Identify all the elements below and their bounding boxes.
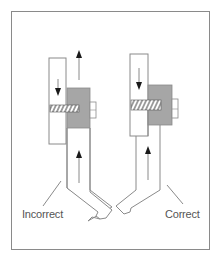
correct-label: Correct: [165, 208, 200, 220]
incorrect-foot: [67, 188, 112, 219]
correct-leader-line: [167, 185, 183, 204]
correct-nut: [172, 99, 178, 118]
incorrect-leader-line: [43, 181, 61, 206]
incorrect-label: Incorrect: [22, 208, 63, 220]
correct-foot: [116, 125, 160, 214]
correct-upper-piece: [130, 54, 148, 136]
correct-assembly: [116, 54, 183, 214]
incorrect-upper-piece: [49, 58, 66, 144]
diagram-drawing: [0, 0, 223, 264]
correct-screw: [131, 100, 161, 110]
incorrect-screw: [50, 105, 79, 112]
incorrect-assembly: [43, 50, 112, 221]
diagram: Incorrect Correct: [0, 0, 223, 264]
